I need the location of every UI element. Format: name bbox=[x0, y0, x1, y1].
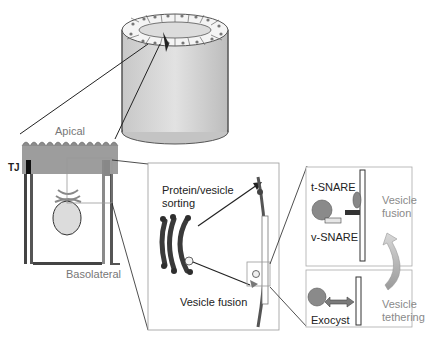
label-v-snare: v-SNARE bbox=[311, 231, 358, 243]
label-exocyst: Exocyst bbox=[311, 314, 350, 326]
label-vesicle-fusion-right-2: fusion bbox=[382, 207, 411, 219]
label-vesicle-fusion-center: Vesicle fusion bbox=[180, 296, 247, 308]
label-vesicle-tethering-2: tethering bbox=[382, 311, 425, 323]
zoom-line bbox=[112, 203, 148, 330]
epithelial-cell bbox=[22, 142, 120, 265]
label-t-snare: t-SNARE bbox=[311, 181, 356, 193]
label-protein-sorting-2: sorting bbox=[162, 197, 195, 209]
epithelial-tube bbox=[122, 14, 228, 144]
label-basolateral: Basolateral bbox=[66, 268, 121, 280]
label-apical: Apical bbox=[55, 125, 85, 137]
label-vesicle-tethering-1: Vesicle bbox=[382, 298, 417, 310]
label-tj: TJ bbox=[8, 162, 20, 174]
label-protein-sorting-1: Protein/vesicle bbox=[162, 184, 234, 196]
label-vesicle-fusion-right-1: Vesicle bbox=[382, 194, 417, 206]
